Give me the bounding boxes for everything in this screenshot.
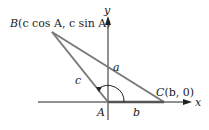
y-axis-label: y [103, 4, 111, 17]
side-b-label: b [133, 106, 140, 119]
vertex-a-label: A [96, 106, 105, 119]
side-c [52, 32, 108, 102]
x-axis-label: x [195, 96, 202, 109]
vertex-b-label: B(c cos A, c sin A) [9, 17, 111, 30]
x-axis-arrow-icon [183, 99, 192, 105]
side-a-label: a [113, 61, 120, 74]
law-of-cosines-diagram: y x B(c cos A, c sin A) C(b, 0) A a b c [0, 0, 209, 130]
side-c-label: c [75, 74, 81, 87]
vertex-c-label: C(b, 0) [156, 86, 194, 99]
